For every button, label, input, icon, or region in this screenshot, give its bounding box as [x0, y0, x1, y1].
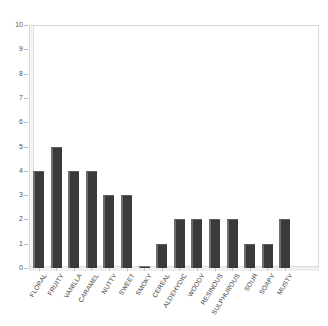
- bar-slot: [244, 25, 255, 268]
- bar-slot: [68, 25, 79, 268]
- x-axis-tick-mark: [267, 268, 268, 271]
- y-axis-tick-label: 9: [19, 44, 23, 54]
- bar: [174, 219, 185, 268]
- y-axis-tick-label: 10: [15, 20, 23, 30]
- x-axis-tick-mark: [162, 268, 163, 271]
- bar-chart: 012345678910 FLORALFRUITYVANILLACARAMELN…: [0, 0, 328, 326]
- y-axis: 012345678910: [0, 0, 29, 326]
- y-axis-tick-mark: [24, 122, 28, 123]
- bar-slot: [51, 25, 62, 268]
- bar-slot: [156, 25, 167, 268]
- x-axis-tick-label: SOUR: [242, 272, 258, 292]
- bar: [227, 219, 238, 268]
- bar: [121, 195, 132, 268]
- x-axis-tick-mark: [91, 268, 92, 271]
- bars-layer: [33, 25, 319, 268]
- y-axis-tick-label: 3: [19, 190, 23, 200]
- y-axis-tick-label: 6: [19, 117, 23, 127]
- y-axis-tick-label: 1: [19, 239, 23, 249]
- bar-slot: [33, 25, 44, 268]
- x-axis-tick-label: SOAPY: [258, 272, 276, 296]
- bar: [262, 244, 273, 268]
- bar-slot: [121, 25, 132, 268]
- y-axis-tick-label: 5: [19, 142, 23, 152]
- x-axis-tick-label: FRUITY: [46, 272, 65, 297]
- x-axis-tick-label: SMOKY: [134, 272, 153, 296]
- bar: [191, 219, 202, 268]
- x-axis-tick-label: SWEET: [117, 272, 136, 296]
- x-axis-tick-label: MUSTY: [275, 272, 294, 296]
- x-axis-tick-mark: [144, 268, 145, 271]
- bar-slot: [103, 25, 114, 268]
- x-axis-tick-label: NUTTY: [100, 272, 118, 295]
- x-axis-tick-mark: [56, 268, 57, 271]
- y-axis-tick-mark: [24, 147, 28, 148]
- x-axis-tick-label: FLORAL: [27, 272, 47, 298]
- x-axis-tick-mark: [74, 268, 75, 271]
- bar: [68, 171, 79, 268]
- y-axis-tick-mark: [24, 74, 28, 75]
- x-axis-tick-mark: [285, 268, 286, 271]
- y-axis-tick-mark: [24, 268, 28, 269]
- x-axis-tick-mark: [215, 268, 216, 271]
- x-axis-tick-mark: [127, 268, 128, 271]
- bar-slot: [227, 25, 238, 268]
- bar-slot: [139, 25, 150, 268]
- y-axis-tick-mark: [24, 171, 28, 172]
- bar: [156, 244, 167, 268]
- bar-slot: [191, 25, 202, 268]
- x-axis-tick-mark: [39, 268, 40, 271]
- y-axis-tick-mark: [24, 219, 28, 220]
- x-axis-tick-mark: [197, 268, 198, 271]
- x-axis-tick-mark: [232, 268, 233, 271]
- bar-slot: [262, 25, 273, 268]
- y-axis-tick-label: 4: [19, 166, 23, 176]
- y-axis-tick-label: 0: [19, 263, 23, 273]
- y-axis-tick-label: 7: [19, 93, 23, 103]
- bar: [51, 147, 62, 269]
- x-axis-tick-mark: [109, 268, 110, 271]
- bar: [244, 244, 255, 268]
- bar-slot: [209, 25, 220, 268]
- bar: [279, 219, 290, 268]
- y-axis-tick-mark: [24, 98, 28, 99]
- bar-slot: [174, 25, 185, 268]
- y-axis-tick-mark: [24, 49, 28, 50]
- bar: [103, 195, 114, 268]
- bar: [33, 171, 44, 268]
- bar: [86, 171, 97, 268]
- bar: [209, 219, 220, 268]
- y-axis-tick-label: 8: [19, 69, 23, 79]
- bar-slot: [86, 25, 97, 268]
- x-axis: FLORALFRUITYVANILLACARAMELNUTTYSWEETSMOK…: [33, 272, 323, 326]
- y-axis-tick-mark: [24, 244, 28, 245]
- x-axis-tick-mark: [250, 268, 251, 271]
- y-axis-tick-mark: [24, 25, 28, 26]
- y-axis-tick-mark: [24, 195, 28, 196]
- x-axis-tick-mark: [179, 268, 180, 271]
- y-axis-tick-label: 2: [19, 214, 23, 224]
- bar-slot: [279, 25, 290, 268]
